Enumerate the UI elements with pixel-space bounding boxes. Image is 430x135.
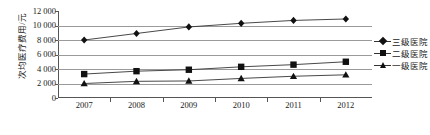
data-point-marker: [133, 30, 139, 37]
data-point-marker: [81, 71, 87, 77]
data-series: [81, 59, 349, 78]
data-series: [81, 15, 349, 43]
data-point-marker: [186, 67, 192, 73]
legend-diamond-icon: [374, 36, 391, 48]
data-point-marker: [186, 23, 192, 30]
data-series-layer: [58, 11, 372, 98]
y-tick-label: 2 000: [12, 79, 56, 88]
x-axis-tick-labels: 200720082009201020112012: [58, 100, 372, 116]
series-line: [84, 19, 346, 40]
y-axis-tick-labels: 12 00010 0008 0006 0004 0002 0000: [10, 0, 56, 135]
legend-item-label: 一级医院: [391, 61, 428, 71]
x-tick-label: 2009: [165, 100, 213, 111]
x-tick-label: 2010: [217, 100, 265, 111]
x-tick-label: 2008: [113, 100, 161, 111]
chart-legend: 三级医院二级医院一级医院: [374, 36, 430, 72]
legend-item-label: 三级医院: [391, 37, 428, 47]
y-tick-label: 4 000: [12, 65, 56, 74]
legend-item[interactable]: 二级医院: [374, 48, 430, 60]
data-point-marker: [290, 61, 296, 67]
data-point-marker: [238, 20, 244, 27]
data-point-marker: [238, 64, 244, 70]
y-tickmark: [55, 98, 58, 99]
series-line: [84, 75, 346, 84]
data-point-marker: [290, 17, 296, 24]
legend-triangle-icon: [374, 60, 391, 72]
data-point-marker: [81, 36, 87, 43]
y-tick-label: 6 000: [12, 50, 56, 59]
series-line: [84, 62, 346, 74]
x-tick-label: 2012: [322, 100, 370, 111]
data-point-marker: [343, 15, 349, 22]
y-tick-label: 12 000: [12, 7, 56, 16]
y-tick-label: 10 000: [12, 21, 56, 30]
y-tick-label: 8 000: [12, 36, 56, 45]
plot-area: [58, 11, 372, 98]
legend-item[interactable]: 一级医院: [374, 60, 430, 72]
line-chart: 次均医疗费用/元 12 00010 0008 0006 0004 0002 00…: [0, 0, 430, 135]
data-series: [81, 71, 350, 86]
x-tick-label: 2007: [60, 100, 108, 111]
legend-item[interactable]: 三级医院: [374, 36, 430, 48]
legend-item-label: 二级医院: [391, 49, 428, 59]
legend-square-icon: [374, 48, 391, 60]
data-point-marker: [133, 68, 139, 74]
x-tick-label: 2011: [270, 100, 318, 111]
data-point-marker: [343, 59, 349, 65]
data-point-marker: [342, 71, 349, 77]
y-tick-label: 0: [12, 94, 56, 103]
